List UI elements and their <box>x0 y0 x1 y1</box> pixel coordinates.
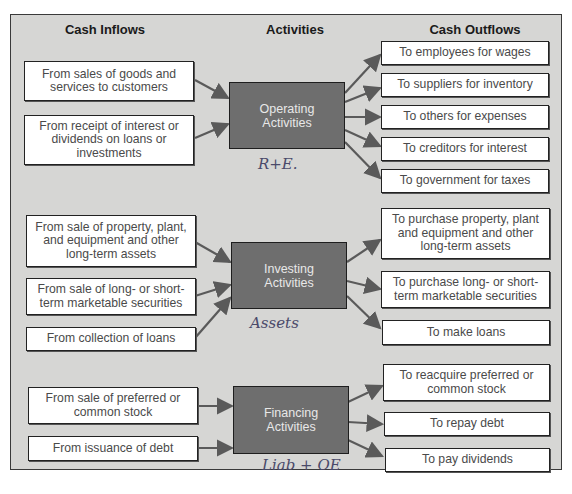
financing-outflow-label: To reacquire preferred or common stock <box>388 369 545 396</box>
financing-inflow-label: From issuance of debt <box>53 442 174 456</box>
investing-inflow-box: From sale of long- or short-term marketa… <box>26 278 196 315</box>
operating-outflow-label: To others for expenses <box>403 110 526 124</box>
investing-inflow-label: From sale of property, plant, and equipm… <box>31 221 191 262</box>
financing-inflow-label: From sale of preferred or common stock <box>33 392 193 419</box>
operating-outflow-box: To creditors for interest <box>381 137 549 161</box>
investing-inflow-box: From sale of property, plant, and equipm… <box>26 215 196 267</box>
financing-outflow-box: To pay dividends <box>385 448 550 472</box>
operating-outflow-label: To creditors for interest <box>403 142 527 156</box>
investing-outflow-box: To purchase property, plant and equipmen… <box>381 208 550 259</box>
operating-inflow-box: From sales of goods and services to cust… <box>24 61 194 101</box>
operating-outflow-box: To employees for wages <box>381 41 549 65</box>
operating-outflow-box: To others for expenses <box>381 105 549 129</box>
operating-inflow-label: From receipt of interest or dividends on… <box>29 120 189 161</box>
financing-label-line2: Activities <box>266 420 315 434</box>
investing-inflow-label: From collection of loans <box>47 332 176 346</box>
operating-inflow-box: From receipt of interest or dividends on… <box>24 115 194 165</box>
operating-outflow-box: To government for taxes <box>381 169 549 193</box>
investing-label-line1: Investing <box>264 262 314 276</box>
investing-outflow-label: To purchase long- or short-term marketab… <box>386 276 545 303</box>
handwritten-note-operating: R+E. <box>258 155 298 173</box>
investing-inflow-box: From collection of loans <box>26 327 196 351</box>
handwritten-note-financing: Liab + OE <box>262 456 341 474</box>
operating-label-line2: Activities <box>262 116 311 130</box>
operating-outflow-label: To employees for wages <box>399 46 530 60</box>
operating-activities-box: OperatingActivities <box>229 82 345 149</box>
operating-label-line1: Operating <box>260 102 315 116</box>
financing-inflow-box: From sale of preferred or common stock <box>28 387 198 424</box>
financing-outflow-label: To repay debt <box>430 417 504 431</box>
investing-outflow-box: To purchase long- or short-term marketab… <box>381 271 550 308</box>
handwritten-note-investing: Assets <box>250 314 299 332</box>
financing-outflow-box: To reacquire preferred or common stock <box>383 364 550 401</box>
operating-outflow-box: To suppliers for inventory <box>381 73 549 97</box>
financing-inflow-box: From issuance of debt <box>28 436 198 461</box>
operating-outflow-label: To government for taxes <box>400 174 531 188</box>
investing-label-line2: Activities <box>264 276 313 290</box>
financing-outflow-box: To repay debt <box>384 412 550 436</box>
investing-outflow-label: To make loans <box>427 326 506 340</box>
financing-outflow-label: To pay dividends <box>422 453 513 467</box>
investing-outflow-box: To make loans <box>382 320 550 345</box>
investing-outflow-label: To purchase property, plant and equipmen… <box>386 213 545 254</box>
investing-inflow-label: From sale of long- or short-term marketa… <box>31 283 191 310</box>
financing-activities-box: FinancingActivities <box>233 386 349 454</box>
financing-label-line1: Financing <box>264 406 318 420</box>
operating-outflow-label: To suppliers for inventory <box>397 78 532 92</box>
investing-activities-box: InvestingActivities <box>231 242 347 309</box>
operating-inflow-label: From sales of goods and services to cust… <box>29 68 189 95</box>
